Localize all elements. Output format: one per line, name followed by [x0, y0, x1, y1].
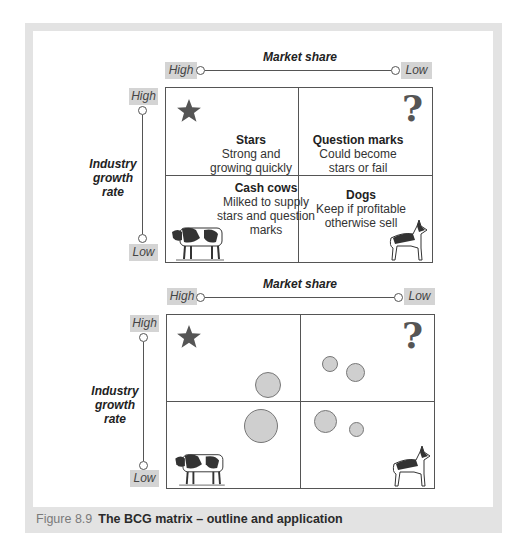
x-axis-title-2: Market share [230, 277, 370, 291]
matrix-divider-horizontal [166, 175, 432, 176]
y-axis-low-node-2 [139, 461, 148, 470]
x-axis-title: Market share [230, 50, 370, 64]
bubble-dogs-2 [349, 422, 364, 437]
x-axis-high-node [196, 66, 205, 75]
x-axis-high-node-2 [196, 293, 205, 302]
y-axis-high-node-2 [139, 333, 148, 342]
figure-caption: Figure 8.9The BCG matrix – outline and a… [36, 512, 343, 526]
x-axis-line [205, 70, 391, 71]
bubble-stars [255, 372, 281, 398]
y-axis-low-label-2: Low [130, 470, 159, 487]
star-icon [176, 98, 202, 124]
y-axis-high-node [138, 106, 147, 115]
dog-icon [383, 218, 429, 262]
matrix-divider-horizontal-2 [167, 401, 434, 402]
x-axis-low-node-2 [394, 293, 403, 302]
x-axis-high-label-2: High [167, 288, 197, 305]
x-axis-low-label-2: Low [404, 288, 435, 305]
dog-icon [386, 444, 432, 488]
x-axis-high-label: High [165, 62, 197, 79]
cow-icon [173, 449, 229, 487]
y-axis-title: Industry growth rate [83, 157, 143, 199]
y-axis-low-node [138, 234, 147, 243]
question-mark-icon: ? [402, 90, 423, 126]
quadrant-question-marks: Question marks Could become stars or fai… [303, 133, 413, 175]
bubble-question-marks-1 [322, 356, 338, 372]
cow-icon [170, 222, 228, 262]
bubble-question-marks-2 [346, 363, 365, 382]
bubble-dogs-1 [314, 410, 337, 433]
star-icon [176, 324, 202, 350]
bubble-cash-cows [244, 409, 278, 443]
outline-matrix: Stars Strong and growing quickly ? Quest… [165, 87, 433, 263]
x-axis-low-label: Low [401, 62, 432, 79]
y-axis-high-label: High [129, 88, 158, 105]
x-axis-low-node [391, 66, 400, 75]
y-axis-title-2: Industry growth rate [85, 384, 145, 426]
x-axis-line-2 [205, 297, 394, 298]
question-mark-icon: ? [402, 317, 423, 353]
figure-title: The BCG matrix – outline and application [98, 512, 342, 526]
quadrant-stars: Stars Strong and growing quickly [196, 133, 306, 175]
figure-number: Figure 8.9 [36, 512, 92, 526]
y-axis-high-label-2: High [130, 315, 159, 332]
application-matrix: ? [166, 314, 435, 489]
y-axis-low-label: Low [129, 244, 158, 261]
